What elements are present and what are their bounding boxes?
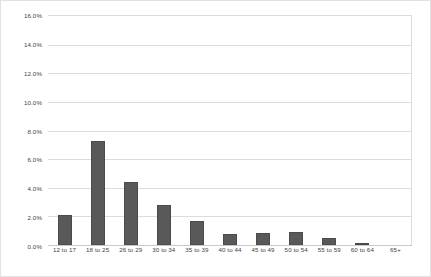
bar-slot xyxy=(312,16,345,245)
x-tick-label: 60 to 64 xyxy=(351,246,374,253)
bar[interactable] xyxy=(355,243,369,245)
x-tick-label: 40 to 44 xyxy=(218,246,241,253)
bar-slot xyxy=(213,16,246,245)
bar-chart: 0.0%2.0%4.0%6.0%8.0%10.0%12.0%14.0%16.0%… xyxy=(0,0,431,277)
x-tick-label: 45 to 49 xyxy=(251,246,274,253)
y-tick-label: 16.0% xyxy=(24,12,42,19)
x-tick-label: 30 to 34 xyxy=(152,246,175,253)
y-tick-label: 10.0% xyxy=(24,98,42,105)
plot-area xyxy=(48,15,412,246)
x-tick-label: 65+ xyxy=(390,246,401,253)
x-tick-label: 18 to 25 xyxy=(86,246,109,253)
bar-slot xyxy=(114,16,147,245)
bar-slot xyxy=(378,16,411,245)
bar[interactable] xyxy=(157,205,171,245)
y-tick-label: 6.0% xyxy=(27,156,42,163)
bar[interactable] xyxy=(190,221,204,245)
bar-slot xyxy=(279,16,312,245)
bar[interactable] xyxy=(289,232,303,245)
bar-slot xyxy=(81,16,114,245)
bar-slot xyxy=(345,16,378,245)
x-axis: 12 to 1718 to 2526 to 2930 to 3435 to 39… xyxy=(48,246,412,266)
bar[interactable] xyxy=(256,233,270,245)
bar-slot xyxy=(147,16,180,245)
bar-slot xyxy=(180,16,213,245)
y-tick-label: 12.0% xyxy=(24,69,42,76)
bar-slot xyxy=(246,16,279,245)
bar[interactable] xyxy=(322,238,336,245)
x-tick-label: 35 to 39 xyxy=(185,246,208,253)
bars-layer xyxy=(48,16,411,245)
bar[interactable] xyxy=(91,141,105,245)
x-tick-label: 55 to 59 xyxy=(318,246,341,253)
bar-slot xyxy=(48,16,81,245)
x-tick-label: 12 to 17 xyxy=(53,246,76,253)
y-tick-label: 8.0% xyxy=(27,127,42,134)
y-tick-label: 2.0% xyxy=(27,214,42,221)
x-tick-label: 26 to 29 xyxy=(119,246,142,253)
bar[interactable] xyxy=(58,215,72,245)
x-tick-label: 50 to 54 xyxy=(285,246,308,253)
y-tick-label: 4.0% xyxy=(27,185,42,192)
bar[interactable] xyxy=(223,234,237,245)
y-tick-label: 14.0% xyxy=(24,40,42,47)
bar[interactable] xyxy=(124,182,138,245)
y-tick-label: 0.0% xyxy=(27,243,42,250)
y-axis: 0.0%2.0%4.0%6.0%8.0%10.0%12.0%14.0%16.0% xyxy=(1,15,45,246)
